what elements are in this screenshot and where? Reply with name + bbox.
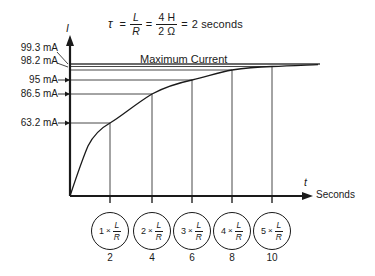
time-constant-circle-1: 1 × L R [91, 212, 129, 250]
tc-num-1: L [113, 221, 120, 231]
y-label-95: 95 mA [0, 75, 58, 85]
tc-times-3: × [188, 227, 193, 235]
tc-fraction-5: L R [275, 221, 283, 241]
tc-multiplier-2: 2 [141, 227, 146, 236]
tc-num-5: L [275, 221, 282, 231]
tc-num-3: L [195, 221, 202, 231]
y-label-86-5: 86.5 mA [0, 89, 58, 99]
leader-line-98-2 [57, 63, 68, 67]
x-axis-unit-label: Seconds [316, 189, 355, 200]
tc-multiplier-4: 4 [221, 227, 226, 236]
maximum-current-label: Maximum Current [140, 53, 227, 65]
tc-times-2: × [148, 227, 153, 235]
y-label-63-2: 63.2 mA [0, 118, 58, 128]
tc-times-1: × [106, 227, 111, 235]
tc-num-2: L [155, 221, 162, 231]
seconds-tick-3: 6 [173, 252, 211, 263]
tc-den-4: R [235, 231, 243, 242]
tc-times-5: × [268, 227, 273, 235]
tc-den-3: R [195, 231, 203, 242]
figure-canvas: τ = L R = 4 H 2 Ω = 2 seconds [0, 0, 375, 276]
tc-den-5: R [275, 231, 283, 242]
tc-fraction-1: L R [113, 221, 121, 241]
tc-multiplier-3: 3 [181, 227, 186, 236]
time-constant-circle-4: 4 × L R [213, 212, 251, 250]
tc-fraction-4: L R [235, 221, 243, 241]
x-axis-label-time: t [304, 176, 307, 188]
tc-den-2: R [155, 231, 163, 242]
time-constant-circle-2: 2 × L R [133, 212, 171, 250]
x-axis-arrowhead [302, 192, 313, 200]
tc-fraction-3: L R [195, 221, 203, 241]
time-constant-circle-5: 5 × L R [253, 212, 291, 250]
seconds-tick-4: 8 [213, 252, 251, 263]
seconds-tick-5: 10 [253, 252, 291, 263]
y-axis-arrowhead [66, 35, 74, 46]
tc-multiplier-1: 1 [99, 227, 104, 236]
seconds-tick-1: 2 [91, 252, 129, 263]
tc-multiplier-5: 5 [261, 227, 266, 236]
tc-den-1: R [113, 231, 121, 242]
tc-times-4: × [228, 227, 233, 235]
time-constant-circle-3: 3 × L R [173, 212, 211, 250]
y-axis-label-current: I [66, 22, 69, 34]
seconds-tick-2: 4 [133, 252, 171, 263]
tc-num-4: L [235, 221, 242, 231]
current-rise-curve [70, 65, 318, 196]
tc-fraction-2: L R [155, 221, 163, 241]
leader-line-99-3 [57, 52, 68, 64]
y-label-99-3: 99.3 mA [0, 43, 58, 53]
y-label-98-2: 98.2 mA [0, 56, 58, 66]
